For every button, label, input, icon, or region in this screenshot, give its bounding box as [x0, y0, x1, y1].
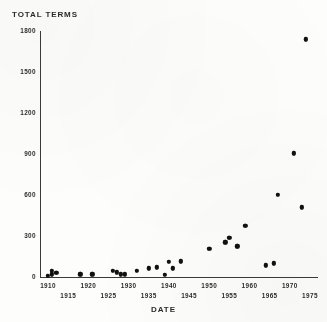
data-point	[235, 244, 239, 248]
data-point	[304, 37, 308, 41]
data-point	[155, 265, 159, 269]
data-point	[271, 261, 275, 265]
data-point	[122, 272, 126, 276]
data-point	[276, 193, 280, 197]
data-point	[227, 236, 231, 240]
data-point	[78, 272, 82, 276]
data-point	[243, 224, 247, 228]
data-point	[54, 271, 58, 275]
data-point	[223, 240, 227, 244]
data-point	[147, 266, 151, 270]
scatter-chart-figure: TOTAL TERMS DATE 0300600900120015001800 …	[0, 0, 327, 322]
data-point	[134, 269, 138, 273]
data-point	[90, 272, 94, 276]
data-point	[171, 266, 175, 270]
data-point	[179, 259, 183, 263]
data-point	[163, 273, 167, 277]
data-point	[292, 151, 296, 155]
data-point	[300, 205, 304, 209]
data-point-layer	[0, 0, 327, 322]
data-point	[263, 263, 267, 267]
data-point	[167, 260, 171, 264]
data-point	[207, 247, 211, 251]
